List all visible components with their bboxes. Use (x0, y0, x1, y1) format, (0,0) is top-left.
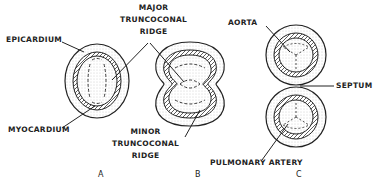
panel-label-a: A (98, 170, 103, 179)
epicardium-label: EPICARDIUM (6, 34, 62, 46)
panel-label-c: C (296, 170, 302, 179)
major-ridge-label: MAJOR TRUNCOCONAL RIDGE (120, 2, 187, 38)
diagram-drawing (0, 0, 380, 185)
panel-label-b: B (195, 170, 201, 179)
panel-b-section (156, 42, 224, 126)
panel-a-section (65, 44, 129, 118)
myocardium-label: MYOCARDIUM (8, 124, 70, 136)
pulmonary-artery-label: PULMONARY ARTERY (210, 157, 303, 169)
aorta-label: AORTA (228, 17, 257, 29)
truncus-diagram: EPICARDIUM MYOCARDIUM MAJOR TRUNCOCONAL … (0, 0, 380, 185)
minor-ridge-label: MINOR TRUNCOCONAL RIDGE (112, 126, 179, 162)
septum-label: SEPTUM (336, 80, 373, 92)
